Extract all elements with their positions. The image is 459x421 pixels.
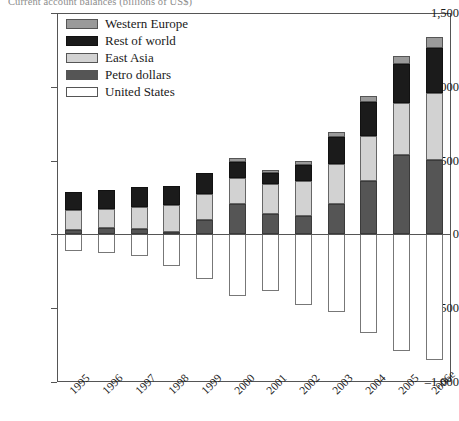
bar-segment-pd[interactable] bbox=[360, 181, 377, 235]
legend-label: Petro dollars bbox=[105, 68, 171, 81]
legend-label: Rest of world bbox=[105, 34, 176, 47]
bar-segment-we[interactable] bbox=[393, 56, 410, 64]
bar-segment-us[interactable] bbox=[426, 234, 443, 359]
bar-segment-ea[interactable] bbox=[426, 93, 443, 160]
chart-title: Current account balances (billions of US… bbox=[8, 0, 192, 7]
bar-segment-pd[interactable] bbox=[229, 204, 246, 234]
bar-segment-row[interactable] bbox=[163, 186, 180, 205]
bar-group[interactable] bbox=[196, 13, 213, 382]
legend-label: East Asia bbox=[105, 51, 154, 64]
legend-item[interactable]: Western Europe bbox=[66, 16, 188, 31]
bar-group[interactable] bbox=[426, 13, 443, 382]
legend-item[interactable]: East Asia bbox=[66, 50, 188, 65]
legend-swatch-icon bbox=[66, 53, 98, 63]
legend-item[interactable]: United States bbox=[66, 84, 188, 99]
bar-group[interactable] bbox=[360, 13, 377, 382]
bar-segment-us[interactable] bbox=[131, 234, 148, 255]
legend-swatch-icon bbox=[66, 70, 98, 80]
bar-segment-ea[interactable] bbox=[196, 194, 213, 221]
bar-group[interactable] bbox=[229, 13, 246, 382]
bar-group[interactable] bbox=[262, 13, 279, 382]
bar-segment-row[interactable] bbox=[65, 192, 82, 210]
bar-segment-ea[interactable] bbox=[295, 181, 312, 216]
bar-segment-us[interactable] bbox=[295, 234, 312, 304]
bar-segment-row[interactable] bbox=[328, 137, 345, 164]
bar-segment-ea[interactable] bbox=[163, 205, 180, 232]
bar-segment-ea[interactable] bbox=[98, 209, 115, 228]
bar-segment-ea[interactable] bbox=[229, 178, 246, 205]
bar-segment-pd[interactable] bbox=[426, 160, 443, 235]
bar-segment-pd[interactable] bbox=[328, 204, 345, 234]
bar-group[interactable] bbox=[328, 13, 345, 382]
bar-group[interactable] bbox=[393, 13, 410, 382]
bar-segment-us[interactable] bbox=[163, 234, 180, 266]
bar-segment-ea[interactable] bbox=[131, 207, 148, 229]
bar-segment-ea[interactable] bbox=[328, 164, 345, 204]
zero-baseline bbox=[57, 234, 451, 235]
bar-segment-us[interactable] bbox=[328, 234, 345, 311]
bar-segment-row[interactable] bbox=[98, 190, 115, 208]
bar-segment-us[interactable] bbox=[65, 234, 82, 251]
bar-segment-us[interactable] bbox=[262, 234, 279, 291]
bar-segment-we[interactable] bbox=[426, 37, 443, 48]
bar-segment-row[interactable] bbox=[360, 102, 377, 136]
bar-segment-ea[interactable] bbox=[262, 184, 279, 214]
bar-segment-row[interactable] bbox=[295, 165, 312, 180]
bar-segment-pd[interactable] bbox=[295, 216, 312, 234]
bar-segment-row[interactable] bbox=[196, 173, 213, 194]
bar-segment-row[interactable] bbox=[393, 64, 410, 103]
bar-segment-we[interactable] bbox=[328, 132, 345, 137]
bar-segment-us[interactable] bbox=[196, 234, 213, 278]
legend-label: United States bbox=[105, 85, 175, 98]
bar-segment-ea[interactable] bbox=[393, 103, 410, 155]
bar-segment-row[interactable] bbox=[131, 187, 148, 207]
bar-segment-us[interactable] bbox=[393, 234, 410, 351]
legend-label: Western Europe bbox=[105, 17, 188, 30]
chart-container: Current account balances (billions of US… bbox=[0, 0, 459, 421]
bar-segment-pd[interactable] bbox=[393, 155, 410, 235]
legend-swatch-icon bbox=[66, 19, 98, 29]
bar-segment-we[interactable] bbox=[262, 170, 279, 173]
bar-segment-row[interactable] bbox=[426, 48, 443, 92]
bar-segment-we[interactable] bbox=[360, 96, 377, 103]
bar-segment-row[interactable] bbox=[262, 173, 279, 184]
bar-segment-pd[interactable] bbox=[262, 214, 279, 235]
bar-segment-ea[interactable] bbox=[65, 210, 82, 230]
bar-segment-us[interactable] bbox=[360, 234, 377, 332]
bar-segment-us[interactable] bbox=[98, 234, 115, 252]
bar-segment-pd[interactable] bbox=[196, 220, 213, 234]
legend-item[interactable]: Petro dollars bbox=[66, 67, 188, 82]
bar-group[interactable] bbox=[295, 13, 312, 382]
bar-segment-we[interactable] bbox=[295, 161, 312, 165]
bar-segment-we[interactable] bbox=[229, 158, 246, 162]
bar-segment-us[interactable] bbox=[229, 234, 246, 295]
bar-segment-row[interactable] bbox=[229, 162, 246, 177]
bar-segment-ea[interactable] bbox=[360, 136, 377, 180]
chart-legend: Western EuropeRest of worldEast AsiaPetr… bbox=[66, 16, 188, 99]
y-axis-tick-mark bbox=[51, 382, 57, 383]
legend-swatch-icon bbox=[66, 87, 98, 97]
legend-swatch-icon bbox=[66, 36, 98, 46]
legend-item[interactable]: Rest of world bbox=[66, 33, 188, 48]
